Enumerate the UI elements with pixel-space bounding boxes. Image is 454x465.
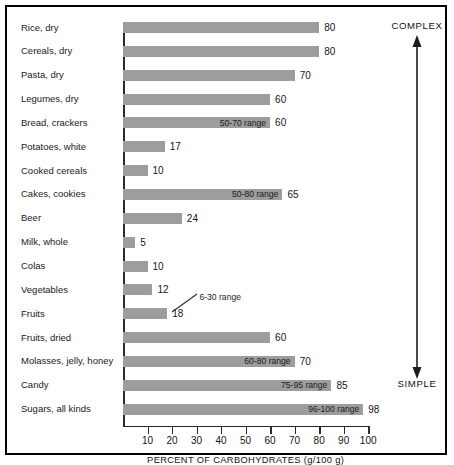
range-label: 75-95 range [269,380,327,391]
category-label: Potatoes, white [21,142,121,152]
x-tick-label: 100 [353,435,383,447]
category-label: Fruits, dried [21,333,121,343]
bar [123,213,182,224]
bar-value-label: 80 [324,46,335,57]
bar-value-label: 10 [153,261,164,272]
bar-value-label: 60 [275,117,286,128]
x-tick [197,427,198,434]
category-label: Cakes, cookies [21,189,121,199]
bar [123,261,148,272]
x-tick [344,427,345,434]
category-label: Colas [21,261,121,271]
bar [123,94,270,105]
bar-value-label: 80 [324,22,335,33]
category-label: Cooked cereals [21,166,121,176]
range-label: 50-70 range [208,118,266,129]
category-label: Bread, crackers [21,118,121,128]
bar-value-label: 85 [336,380,347,391]
bar [123,332,270,343]
bar-value-label: 70 [300,356,311,367]
bar [123,308,167,319]
category-label: Cereals, dry [21,46,121,56]
bar-value-label: 60 [275,332,286,343]
simple-label: SIMPLE [377,378,454,389]
category-label: Fruits [21,309,121,319]
bar-value-label: 60 [275,94,286,105]
bar [123,165,148,176]
bar-value-label: 24 [187,213,198,224]
bar-value-label: 17 [170,141,181,152]
x-tick [319,427,320,434]
range-callout-label: 6-30 range [199,292,241,303]
bar-value-label: 70 [300,70,311,81]
category-label: Beer [21,213,121,223]
x-tick [295,427,296,434]
bar-value-label: 65 [287,189,298,200]
category-label: Pasta, dry [21,70,121,80]
x-tick [148,427,149,434]
bar [123,284,152,295]
range-label: 60-80 range [233,356,291,367]
category-label: Sugars, all kinds [21,404,121,414]
x-tick [172,427,173,434]
category-label: Milk, whole [21,237,121,247]
category-label: Rice, dry [21,23,121,33]
range-label: 50-80 range [220,189,278,200]
complex-to-simple-arrow-icon [383,35,451,379]
x-tick [221,427,222,434]
x-axis-title: PERCENT OF CARBOHYDRATES (g/100 g) [123,455,368,465]
complex-label: COMPLEX [377,20,454,31]
bar [123,46,319,57]
bar [123,141,165,152]
category-label: Legumes, dry [21,94,121,104]
bar [123,22,319,33]
bar-value-label: 5 [140,237,146,248]
x-tick [368,427,369,434]
category-label: Candy [21,380,121,390]
bar [123,70,295,81]
category-label: Molasses, jelly, honey [21,356,121,366]
x-tick [246,427,247,434]
chart-frame: Rice, dryCereals, dryPasta, dryLegumes, … [5,5,447,455]
range-label: 96-100 range [301,404,359,415]
bar-value-label: 10 [153,165,164,176]
x-tick [270,427,271,434]
bar [123,237,135,248]
category-label: Vegetables [21,285,121,295]
bar-value-label: 12 [157,284,168,295]
range-callout-leader-line [172,293,198,313]
bar-value-label: 98 [368,404,379,415]
